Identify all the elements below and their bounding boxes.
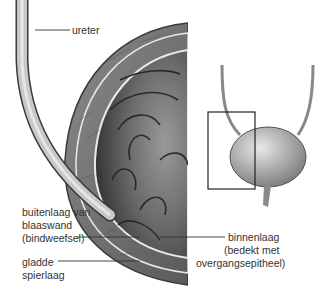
label-outer-layer-2: blaaswand: [22, 219, 72, 232]
bladder-section: [65, 23, 188, 285]
label-inner-layer-2: (bedekt met: [224, 244, 279, 257]
label-smooth-muscle-1: gladde: [22, 256, 54, 269]
label-inner-layer-1: binnenlaag: [228, 231, 279, 244]
label-smooth-muscle-2: spierlaag: [22, 269, 65, 282]
label-inner-layer-3: overgangsepitheel): [196, 257, 285, 270]
label-outer-layer-3: (bindweefsel): [22, 232, 84, 245]
bladder-overview: [208, 65, 313, 207]
bladder-diagram: ureter buitenlaag van blaaswand (bindwee…: [0, 0, 333, 307]
label-ureter: ureter: [72, 24, 99, 37]
label-outer-layer-1: buitenlaag van: [22, 206, 90, 219]
